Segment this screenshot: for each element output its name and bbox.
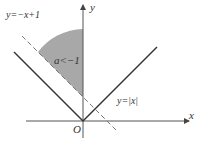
dashed-line-label: y=−x+1 [6,10,40,20]
y-axis-label: y [90,2,95,13]
coordinate-plane [0,0,201,148]
x-axis-label: x [189,110,194,121]
region-label: a<−1 [54,55,80,66]
diagram-canvas: y=−x+1 a<−1 y=|x| y x O [0,0,201,148]
origin-label: O [73,124,81,135]
abs-right-arm [83,47,157,121]
abs-curve-label: y=|x| [117,96,138,106]
